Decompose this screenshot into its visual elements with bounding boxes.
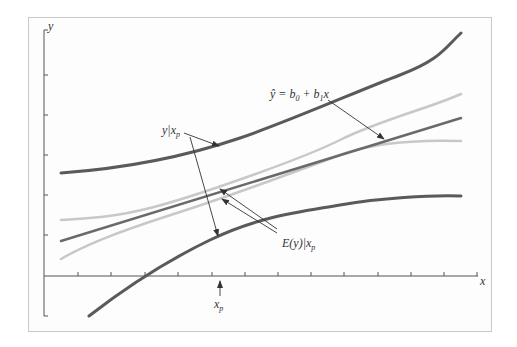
eq-part-tail: x	[324, 87, 329, 101]
x-axis-label: x	[480, 275, 485, 287]
label-y-given-xp-main: y|x	[162, 123, 176, 137]
prediction-band-upper	[61, 33, 461, 173]
confidence-band-upper	[61, 94, 461, 220]
x-axis	[44, 272, 478, 276]
label-expected-y-given-xp: E(y)|xp	[282, 237, 315, 252]
prediction-band-lower	[89, 196, 461, 316]
label-expected-main: E(y)|x	[282, 236, 311, 250]
label-xp-sub: p	[219, 304, 223, 313]
regression-interval-diagram	[0, 0, 517, 347]
confidence-band-lower	[61, 141, 461, 259]
label-expected-sub: p	[311, 243, 315, 252]
label-regression-equation: ŷ = b0 + b1x	[270, 88, 329, 103]
y-axis	[44, 30, 48, 316]
label-y-given-xp-sub: p	[176, 130, 180, 139]
y-axis-label: y	[48, 20, 53, 32]
eq-part-main: ŷ = b	[270, 87, 295, 101]
label-y-given-xp: y|xp	[162, 124, 180, 139]
regression-line	[61, 118, 461, 241]
label-xp: xp	[214, 298, 223, 313]
eq-part-mid: + b	[299, 87, 319, 101]
annotation-arrows	[184, 100, 384, 296]
